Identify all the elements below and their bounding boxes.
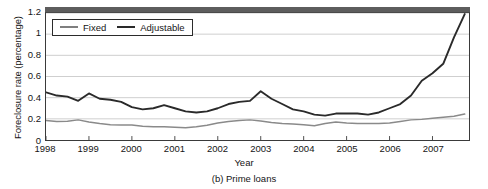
legend-entry-adjustable: Adjustable [117, 22, 184, 33]
series-line-fixed [46, 114, 465, 128]
x-axis-title: Year [0, 157, 488, 168]
figure-caption: (b) Prime loans [0, 173, 488, 184]
x-tick-label: 2007 [423, 143, 444, 154]
x-tick-label: 2003 [250, 143, 271, 154]
legend-label-adjustable: Adjustable [140, 22, 184, 33]
y-tick-label: 1.2 [1, 7, 41, 17]
legend-label-fixed: Fixed [83, 22, 106, 33]
legend-swatch-adjustable-icon [117, 26, 135, 29]
x-tick-label: 1999 [78, 143, 99, 154]
y-tick-label: 0.8 [1, 50, 41, 60]
figure-prime-loans: Foreclosure rate (percentage) 00.20.40.6… [0, 0, 488, 189]
y-tick-label: 0.4 [1, 93, 41, 103]
y-tick-label: 0.2 [1, 114, 41, 124]
legend-entry-fixed: Fixed [60, 22, 106, 33]
x-tick-label: 2005 [336, 143, 357, 154]
y-tick-label: 1 [1, 28, 41, 38]
y-tick-label: 0.6 [1, 71, 41, 81]
chart-legend: Fixed Adjustable [52, 19, 193, 36]
x-tick-label: 2002 [207, 143, 228, 154]
x-tick-label: 2006 [380, 143, 401, 154]
x-tick-label: 2001 [164, 143, 185, 154]
x-tick-label: 1998 [34, 143, 55, 154]
x-tick-label: 2004 [293, 143, 314, 154]
x-axis-ticks: 1998199920002001200220032004200520062007 [45, 143, 470, 157]
legend-swatch-fixed-icon [60, 26, 78, 28]
x-tick-label: 2000 [121, 143, 142, 154]
